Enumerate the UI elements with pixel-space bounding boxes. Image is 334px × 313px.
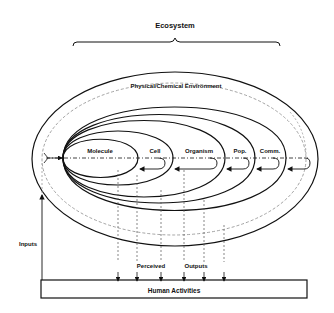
outputs-label: Outputs <box>185 263 209 269</box>
level-label-pop: Pop. <box>234 148 247 154</box>
level-label-comm: Comm. <box>260 148 281 154</box>
environment-dashed-ellipse <box>42 83 306 235</box>
ecosystem-outer-ellipse <box>32 72 318 246</box>
level-label-molecule: Molecule <box>87 148 113 154</box>
organism-ellipse <box>63 121 225 198</box>
ecosystem-hierarchy-diagram: Ecosystem Physical/Chemical Environment … <box>0 0 334 313</box>
environment-label: Physical/Chemical Environment <box>130 83 221 89</box>
environment-to-axis-dashed <box>290 112 306 156</box>
level-ellipses <box>63 107 286 211</box>
inputs-label: Inputs <box>19 241 38 247</box>
perceived-label: Perceived <box>137 263 166 269</box>
level-label-organism: Organism <box>185 148 213 154</box>
human-activities-label: Human Activities <box>148 287 201 294</box>
ecosystem-title: Ecosystem <box>155 21 195 30</box>
level-label-cell: Cell <box>149 148 160 154</box>
ecosystem-brace <box>73 38 280 46</box>
population-ellipse <box>63 115 255 204</box>
